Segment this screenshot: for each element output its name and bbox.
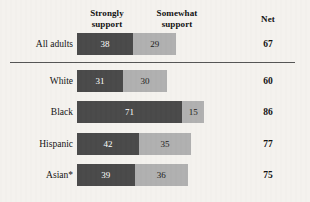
- stacked-bar-chart: Strongly support Somewhat support Net Al…: [0, 0, 310, 202]
- bar-segment-somewhat-support: 15: [182, 101, 204, 123]
- stacked-bar: 7115: [77, 101, 204, 123]
- table-row: All adults382967: [0, 33, 310, 55]
- table-row: White313060: [0, 70, 310, 92]
- bar-segment-somewhat-support: 36: [135, 164, 188, 186]
- column-header-somewhat-support: Somewhat support: [140, 8, 214, 29]
- stacked-bar: 3829: [77, 33, 176, 55]
- bar-segment-strongly-support: 38: [77, 33, 133, 55]
- stacked-bar: 3936: [77, 164, 188, 186]
- column-header-strongly-support-line2: support: [74, 19, 140, 30]
- column-header-strongly-support-line1: Strongly: [90, 8, 124, 18]
- bar-segment-somewhat-support: 29: [133, 33, 176, 55]
- row-label: All adults: [0, 39, 73, 50]
- column-header-strongly-support: Strongly support: [74, 8, 140, 29]
- stacked-bar: 3130: [77, 70, 167, 92]
- column-header-somewhat-support-line1: Somewhat: [157, 8, 198, 18]
- bar-segment-somewhat-support: 35: [139, 133, 191, 155]
- table-row: Black711586: [0, 101, 310, 123]
- section-divider: [10, 62, 295, 63]
- column-header-net: Net: [248, 14, 288, 25]
- table-row: Asian*393675: [0, 164, 310, 186]
- bar-segment-strongly-support: 31: [77, 70, 123, 92]
- column-header-somewhat-support-line2: support: [140, 19, 214, 30]
- net-value: 86: [248, 107, 288, 117]
- row-label: White: [0, 76, 73, 87]
- bar-segment-strongly-support: 71: [77, 101, 182, 123]
- bar-segment-strongly-support: 39: [77, 164, 135, 186]
- net-value: 67: [248, 39, 288, 49]
- net-value: 77: [248, 139, 288, 149]
- table-row: Hispanic423577: [0, 133, 310, 155]
- bar-segment-somewhat-support: 30: [123, 70, 167, 92]
- row-label: Hispanic: [0, 139, 73, 150]
- net-value: 75: [248, 170, 288, 180]
- bar-segment-strongly-support: 42: [77, 133, 139, 155]
- row-label: Black: [0, 107, 73, 118]
- stacked-bar: 4235: [77, 133, 191, 155]
- row-label: Asian*: [0, 170, 73, 181]
- net-value: 60: [248, 76, 288, 86]
